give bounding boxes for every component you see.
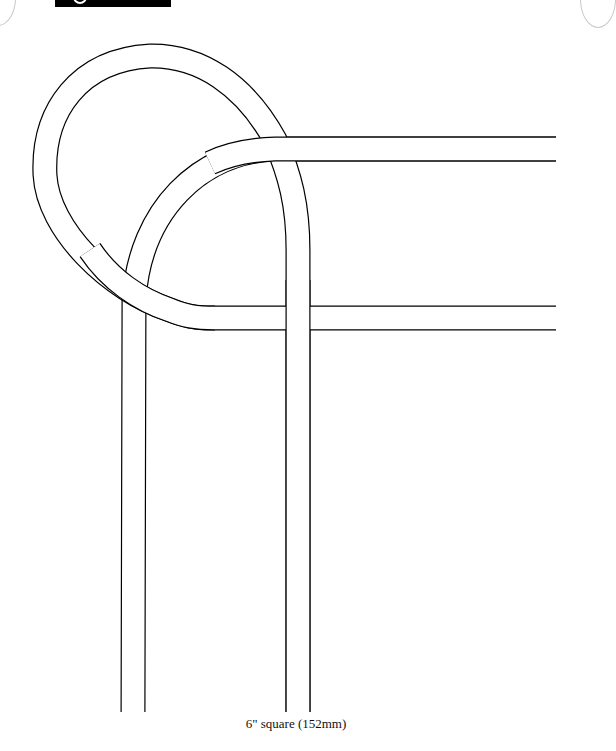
band-a-top-over [210, 149, 556, 163]
band-a-horizontal-to-left-vertical [133, 149, 556, 712]
size-caption: 6" square (152mm) [0, 716, 592, 732]
